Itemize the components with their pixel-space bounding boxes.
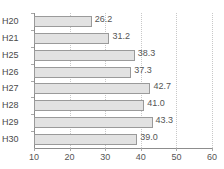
- bar-H30: [34, 134, 137, 145]
- bar-row: 26.2: [0, 16, 224, 27]
- category-label-H29: H29: [2, 117, 32, 128]
- y-tick-mark: [31, 131, 34, 132]
- bar-row: 42.7: [0, 83, 224, 94]
- y-tick-mark: [31, 13, 34, 14]
- category-label-H30: H30: [2, 134, 32, 145]
- category-label-H26: H26: [2, 67, 32, 78]
- bar-H26: [34, 67, 131, 78]
- y-tick-mark: [31, 114, 34, 115]
- category-label-H21: H21: [2, 33, 32, 44]
- bar-value-label: 26.2: [95, 14, 113, 25]
- x-tick-label-50: 50: [171, 152, 181, 163]
- x-tick-mark-60: [212, 148, 213, 151]
- category-label-H20: H20: [2, 16, 32, 27]
- bar-value-label: 41.0: [147, 98, 165, 109]
- x-tick-mark-10: [34, 148, 35, 151]
- x-tick-label-60: 60: [207, 152, 217, 163]
- y-tick-mark: [31, 30, 34, 31]
- x-tick-mark-30: [105, 148, 106, 151]
- bar-value-label: 31.2: [112, 31, 130, 42]
- x-tick-mark-20: [70, 148, 71, 151]
- bar-row: 41.0: [0, 100, 224, 111]
- bar-H27: [34, 83, 150, 94]
- x-tick-label-10: 10: [29, 152, 39, 163]
- bar-value-label: 37.3: [134, 65, 152, 76]
- category-label-H28: H28: [2, 100, 32, 111]
- bar-H25: [34, 50, 135, 61]
- x-tick-mark-50: [176, 148, 177, 151]
- bar-row: 39.0: [0, 134, 224, 145]
- y-tick-mark: [31, 97, 34, 98]
- bar-value-label: 38.3: [138, 48, 156, 59]
- y-tick-mark: [31, 47, 34, 48]
- bar-value-label: 42.7: [153, 81, 171, 92]
- x-axis-line: [34, 148, 213, 149]
- bar-H20: [34, 16, 92, 27]
- bar-value-label: 39.0: [140, 132, 158, 143]
- bar-value-label: 43.3: [156, 115, 174, 126]
- x-tick-mark-40: [141, 148, 142, 151]
- bar-row: 31.2: [0, 33, 224, 44]
- y-tick-mark: [31, 64, 34, 65]
- bar-H28: [34, 100, 144, 111]
- y-tick-mark: [31, 81, 34, 82]
- bar-chart: 26.231.238.337.342.741.043.339.0 H20H21H…: [0, 0, 224, 169]
- category-label-H25: H25: [2, 50, 32, 61]
- x-tick-label-40: 40: [136, 152, 146, 163]
- bar-H29: [34, 117, 153, 128]
- bar-row: 38.3: [0, 50, 224, 61]
- bar-row: 37.3: [0, 67, 224, 78]
- bar-row: 43.3: [0, 117, 224, 128]
- category-label-H27: H27: [2, 83, 32, 94]
- x-tick-label-30: 30: [100, 152, 110, 163]
- x-tick-label-20: 20: [65, 152, 75, 163]
- bar-H21: [34, 33, 109, 44]
